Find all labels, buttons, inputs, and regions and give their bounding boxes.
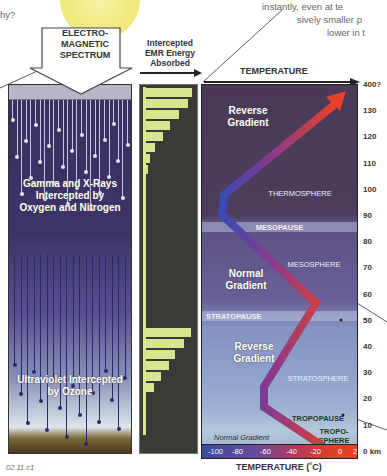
gamma-label-line: Intercepted by <box>10 190 130 202</box>
energy-title-line: Absorbed <box>138 58 202 68</box>
uv-label-line: Ultraviolet Intercepted <box>10 374 130 386</box>
altitude-tick: 50 <box>363 316 372 325</box>
spectrum-title-line: ELECTRO- <box>44 28 126 39</box>
energy-bar <box>146 110 179 119</box>
scale-tick: -20 <box>310 445 321 458</box>
energy-bar-chart <box>139 84 198 454</box>
altitude-tick: 0 km <box>363 447 381 456</box>
energy-bar <box>146 154 150 163</box>
altitude-tick: 90 <box>363 211 372 220</box>
temperature-axis-label: TEMPERATURE (˚C) <box>236 462 322 472</box>
spectrum-panel <box>8 84 132 454</box>
energy-bar <box>146 350 175 359</box>
altitude-tick: 130 <box>363 106 376 115</box>
altitude-tick: 400? <box>363 80 381 89</box>
energy-bar <box>146 361 169 370</box>
gamma-label-line: Gamma and X-Rays <box>10 178 130 190</box>
scale-tick: -100 <box>208 445 223 458</box>
altitude-tick: 30 <box>363 368 372 377</box>
altitude-tick: 70 <box>363 263 372 272</box>
scale-tick: 2 <box>353 445 357 458</box>
gamma-xray-label: Gamma and X-Rays Intercepted by Oxygen a… <box>10 178 130 214</box>
scale-tick: -80 <box>232 445 243 458</box>
altitude-tick: 80 <box>363 237 372 246</box>
energy-bar <box>146 328 191 337</box>
scale-tick: -40 <box>286 445 297 458</box>
gamma-label-line: Oxygen and Nitrogen <box>10 202 130 214</box>
energy-panel-title: Intercepted EMR Energy Absorbed <box>138 38 202 68</box>
scale-tick: -60 <box>260 445 271 458</box>
altitude-tick: 40 <box>363 342 372 351</box>
energy-bar <box>146 143 155 152</box>
altitude-tick: 100 <box>363 185 376 194</box>
energy-bar <box>146 339 184 348</box>
altitude-tick: 120 <box>363 132 376 141</box>
energy-bar <box>146 372 161 381</box>
spectrum-title-line: SPECTRUM <box>44 50 126 61</box>
energy-title-line: EMR Energy <box>138 48 202 58</box>
energy-title-line: Intercepted <box>138 38 202 48</box>
altitude-tick: 10 <box>363 421 372 430</box>
energy-bar <box>146 383 154 392</box>
temperature-panel: MESOPAUSE STRATOPAUSE THERMOSPHERE MESOS… <box>201 84 358 446</box>
spectrum-title-line: MAGNETIC <box>44 39 126 50</box>
temperature-title: TEMPERATURE <box>240 66 308 76</box>
altitude-tick: 20 <box>363 394 372 403</box>
energy-bar <box>146 88 192 97</box>
energy-bar <box>146 99 188 108</box>
altitude-tick: 60 <box>363 290 372 299</box>
energy-arrow-icon <box>140 68 202 78</box>
spectrum-title: ELECTRO- MAGNETIC SPECTRUM <box>44 28 126 61</box>
energy-bar <box>146 165 148 174</box>
figure-id: 02.11.c1 <box>6 463 34 472</box>
uv-label-line: by Ozone <box>10 386 130 398</box>
temperature-scale: -100 -80 -60 -40 -20 0 2 <box>201 444 358 459</box>
uv-label: Ultraviolet Intercepted by Ozone <box>10 374 130 398</box>
scale-tick: 0 <box>338 445 342 458</box>
energy-bar <box>146 121 170 130</box>
temperature-curve <box>202 85 357 445</box>
energy-bar <box>146 132 163 141</box>
altitude-tick: 110 <box>363 159 376 168</box>
